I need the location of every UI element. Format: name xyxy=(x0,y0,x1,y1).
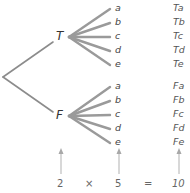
equation-second: 5 xyxy=(115,179,121,189)
outcome-Tc: Tc xyxy=(173,31,183,41)
equation-first: 2 xyxy=(57,179,63,189)
outcome-Tb: Tb xyxy=(173,17,185,27)
node-T: T xyxy=(56,31,63,41)
leaf-T-c: c xyxy=(115,31,120,41)
node-F: F xyxy=(56,110,63,120)
leaf-F-e: e xyxy=(115,137,121,147)
leaf-F-c: c xyxy=(115,109,120,119)
equation-times: × xyxy=(85,179,93,189)
outcome-Td: Td xyxy=(173,45,185,55)
branch-root-T xyxy=(3,42,53,77)
leaf-T-d: d xyxy=(115,45,121,55)
leaf-F-b: b xyxy=(115,95,121,105)
outcome-Ta: Ta xyxy=(173,3,184,13)
equation-result: 10 xyxy=(172,179,185,189)
leaf-T-a: a xyxy=(115,3,121,13)
outcome-Te: Te xyxy=(173,59,183,69)
outcome-Fa: Fa xyxy=(173,81,184,91)
outcome-Fe: Fe xyxy=(173,137,184,147)
branch-root-F xyxy=(3,77,53,112)
leaf-T-e: e xyxy=(115,59,121,69)
outcome-Fc: Fc xyxy=(173,109,184,119)
outcome-Fb: Fb xyxy=(173,95,185,105)
leaf-F-d: d xyxy=(115,123,121,133)
tree-diagram-lines xyxy=(0,0,190,193)
leaf-F-a: a xyxy=(115,81,121,91)
equation-equals: = xyxy=(144,179,152,189)
outcome-Fd: Fd xyxy=(173,123,185,133)
leaf-T-b: b xyxy=(115,17,121,27)
